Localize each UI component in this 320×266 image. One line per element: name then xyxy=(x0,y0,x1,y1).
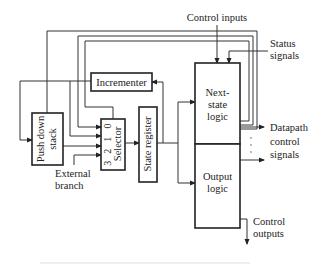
external-branch-label: External xyxy=(55,168,91,179)
svg-text:Next-: Next- xyxy=(206,87,230,98)
svg-text:logic: logic xyxy=(207,183,228,194)
wire-external-branch xyxy=(74,155,101,165)
svg-text:Selector: Selector xyxy=(112,126,123,161)
wire-to-next-state-logic xyxy=(178,102,195,143)
datapath-control-signals-label-3: signals xyxy=(270,149,299,160)
svg-text:logic: logic xyxy=(207,111,228,122)
selector-block: 3 2 1 0 Selector xyxy=(101,119,125,170)
datapath-control-signals-label: Datapath xyxy=(270,122,309,133)
external-branch-label-2: branch xyxy=(55,180,84,191)
svg-text:state: state xyxy=(208,99,228,110)
control-outputs-arrow xyxy=(240,219,247,244)
output-logic-block: Output logic xyxy=(195,144,240,228)
svg-text:Incrementer: Incrementer xyxy=(96,77,147,88)
next-state-logic-block: Next- state logic xyxy=(195,63,240,144)
svg-text:stack: stack xyxy=(47,127,58,149)
wire-to-output-logic xyxy=(178,143,195,183)
status-signals-label: Status xyxy=(270,38,296,49)
svg-text:Push down: Push down xyxy=(35,115,46,162)
control-inputs-label: Control inputs xyxy=(187,12,247,23)
status-signals-label-2: signals xyxy=(270,50,299,61)
svg-text:State register: State register xyxy=(142,116,153,172)
push-down-stack-block: Push down stack xyxy=(32,113,63,165)
control-outputs-label-2: outputs xyxy=(253,228,284,239)
datapath-ellipsis xyxy=(250,137,251,152)
control-outputs-label: Control xyxy=(253,216,285,227)
state-register-block: State register xyxy=(139,107,157,182)
microprogram-sequencer-diagram: Push down stack 3 2 1 0 Selector Increme… xyxy=(0,0,320,266)
svg-text:Output: Output xyxy=(203,171,232,182)
datapath-control-signals-label-2: control xyxy=(270,136,300,147)
incrementer-block: Incrementer xyxy=(91,73,152,91)
faint-caption xyxy=(40,262,250,264)
